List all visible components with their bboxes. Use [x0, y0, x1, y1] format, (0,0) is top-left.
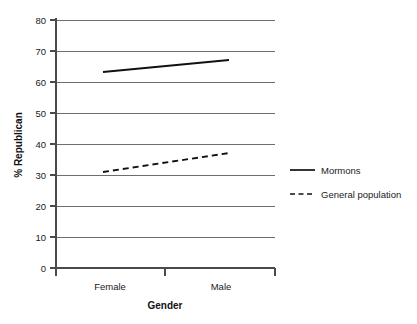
y-tick-label-10: 10 [35, 232, 46, 243]
series-line-general-population [103, 153, 229, 172]
x-tick-marks [56, 268, 275, 276]
chart-container: 80 70 60 50 40 30 20 10 0 Female Male Ge… [0, 0, 417, 324]
x-axis-title: Gender [147, 300, 182, 311]
y-tick-label-40: 40 [35, 139, 46, 150]
y-axis-title: % Republican [13, 112, 24, 178]
y-tick-label-0: 0 [41, 263, 46, 274]
y-tick-label-30: 30 [35, 170, 46, 181]
y-tick-label-80: 80 [35, 15, 46, 26]
x-tick-label-male: Male [211, 281, 232, 292]
y-tick-label-70: 70 [35, 46, 46, 57]
legend: Mormons General population [290, 165, 401, 200]
legend-label-general-population: General population [321, 189, 401, 200]
series-line-mormons [103, 60, 229, 72]
y-tick-label-20: 20 [35, 201, 46, 212]
gridlines [56, 20, 275, 237]
y-tick-label-50: 50 [35, 108, 46, 119]
y-tick-label-60: 60 [35, 77, 46, 88]
legend-label-mormons: Mormons [321, 165, 361, 176]
x-tick-label-female: Female [94, 281, 126, 292]
line-chart: 80 70 60 50 40 30 20 10 0 Female Male Ge… [0, 0, 417, 324]
y-tick-marks [50, 20, 56, 268]
